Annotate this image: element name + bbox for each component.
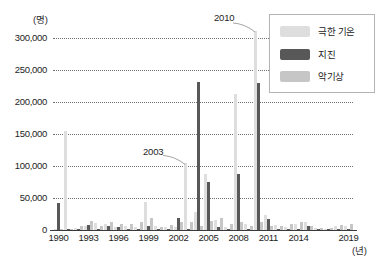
bar-group	[164, 22, 174, 230]
legend-label-extreme-temperature: 극한 기온	[318, 24, 355, 38]
y-axis-tick-label: 250,000	[0, 64, 47, 75]
bar-group	[244, 22, 254, 230]
x-axis-tick-label: 1990	[48, 232, 68, 243]
legend-swatch-earthquake	[280, 49, 310, 60]
y-axis-tick-label: 200,000	[0, 96, 47, 107]
x-axis-tick-label: 2008	[228, 232, 248, 243]
bar	[57, 203, 60, 230]
bar-group	[64, 22, 74, 230]
chart-legend: 극한 기온 지진 악기상	[269, 14, 375, 93]
x-axis-tick-label: 2002	[168, 232, 188, 243]
bar-group	[74, 22, 84, 230]
x-axis-tick-label: 2019	[338, 232, 358, 243]
x-axis-tick-label: 1996	[108, 232, 128, 243]
bar-group	[154, 22, 164, 230]
annotation-2003: 2003	[143, 146, 163, 157]
bar-group	[214, 22, 224, 230]
legend-item-extreme-temperature: 극한 기온	[280, 24, 355, 38]
legend-label-earthquake: 지진	[318, 47, 335, 61]
y-axis-tick-label: 50,000	[0, 192, 47, 203]
x-axis-tick-label: 2005	[198, 232, 218, 243]
legend-item-severe-weather: 악기상	[280, 69, 344, 83]
bar	[257, 83, 260, 230]
bar-group	[254, 22, 264, 230]
x-axis-tick-labels: 1990199319961999200220052008201120142019	[53, 232, 363, 248]
bar-group	[114, 22, 124, 230]
bar-group	[224, 22, 234, 230]
x-axis-line	[50, 230, 357, 231]
bar-group	[134, 22, 144, 230]
y-axis-tick-label: 0	[0, 224, 47, 235]
bar-group	[94, 22, 104, 230]
y-axis-tick-label: 300,000	[0, 32, 47, 43]
x-axis-tick-label: 2014	[288, 232, 308, 243]
bar-group	[124, 22, 134, 230]
legend-swatch-extreme-temperature	[280, 26, 310, 37]
bar-group	[54, 22, 64, 230]
bar-group	[234, 22, 244, 230]
disaster-casualties-bar-chart: (명) (년) 050,000100,000150,000200,000250,…	[0, 0, 381, 269]
bar-group	[204, 22, 214, 230]
bar-group	[84, 22, 94, 230]
x-axis-tick-label: 2011	[259, 232, 278, 243]
bar	[197, 82, 200, 230]
bar	[64, 131, 67, 230]
annotation-2010: 2010	[214, 12, 234, 23]
bar-group	[144, 22, 154, 230]
y-axis-tick-label: 100,000	[0, 160, 47, 171]
bar-group	[174, 22, 184, 230]
x-axis-tick-label: 1999	[138, 232, 158, 243]
legend-swatch-severe-weather	[280, 71, 310, 82]
bar-group	[104, 22, 114, 230]
legend-label-severe-weather: 악기상	[318, 69, 344, 83]
legend-item-earthquake: 지진	[280, 47, 335, 61]
bar	[184, 163, 187, 230]
bar-group	[194, 22, 204, 230]
x-axis-tick-label: 1993	[78, 232, 98, 243]
y-axis-tick-label: 150,000	[0, 128, 47, 139]
y-axis-unit-label: (명)	[33, 12, 48, 26]
bar-group	[184, 22, 194, 230]
